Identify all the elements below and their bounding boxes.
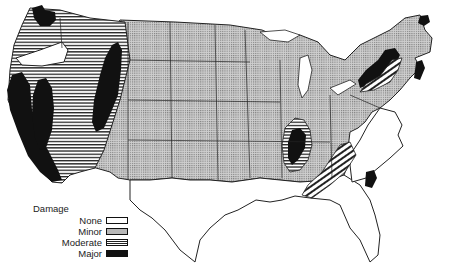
swatch-minor-icon <box>106 228 128 235</box>
legend-item-none: None <box>30 215 102 226</box>
legend-label-none: None <box>30 215 102 227</box>
legend-item-minor: Minor <box>30 226 102 237</box>
legend-label-minor: Minor <box>30 226 102 238</box>
region-none-south <box>130 175 380 262</box>
region-major-south-carolina <box>365 170 377 188</box>
swatch-moderate-icon <box>106 239 128 246</box>
legend-label-moderate: Moderate <box>30 237 102 249</box>
legend-title: Damage <box>33 203 69 215</box>
legend-label-major: Major <box>30 248 102 260</box>
swatch-major-icon <box>106 250 128 257</box>
swatch-none-icon <box>106 217 128 224</box>
legend-item-major: Major <box>30 248 102 259</box>
legend-item-moderate: Moderate <box>30 237 102 248</box>
